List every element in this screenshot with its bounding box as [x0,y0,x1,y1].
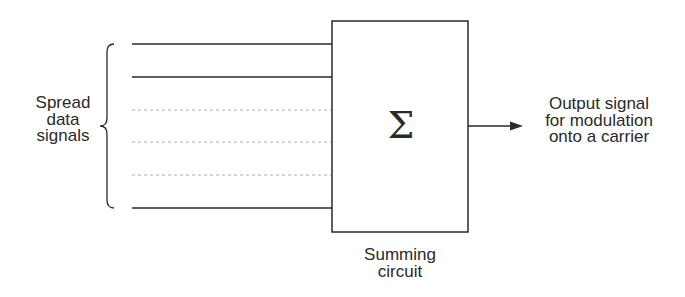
diagram-graphics [0,0,685,297]
input-label-spread-data-signals: Spread data signals [18,95,108,145]
summing-circuit-label: Summing circuit [350,247,450,280]
output-arrowhead [510,122,523,131]
output-signal-label: Output signal for modulation onto a carr… [527,96,671,146]
input-label-line: signals [18,128,108,145]
summing-label-line: circuit [350,264,450,281]
sigma-symbol: Σ [370,101,432,149]
output-label-line: onto a carrier [527,129,671,146]
input-signal-lines [132,44,332,208]
summing-circuit-diagram: Spread data signals Σ Summing circuit Ou… [0,0,685,297]
